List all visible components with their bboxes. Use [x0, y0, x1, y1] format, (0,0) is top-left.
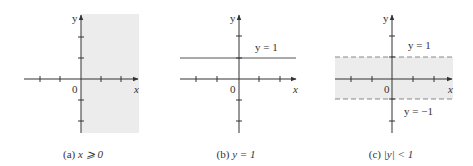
line-label-y-equals-1: y = 1	[255, 41, 278, 53]
origin-label: 0	[72, 83, 78, 95]
caption-c: (c) |y| < 1	[369, 148, 413, 161]
origin-label: 0	[230, 83, 236, 95]
panel-b: y x 0 y = 1 (b) y = 1	[180, 12, 298, 161]
panel-a: y x 0 (a) x ⩾ 0	[24, 12, 139, 161]
origin-label: 0	[384, 83, 390, 95]
x-axis-label: x	[292, 83, 298, 95]
shaded-region-x-nonneg	[81, 14, 139, 133]
shaded-band-abs-y-lt-1	[335, 57, 453, 99]
y-axis-label: y	[72, 12, 78, 24]
panel-c: y x 0 y = 1 y = −1 (c) |y| < 1	[335, 12, 453, 161]
caption-b: (b) y = 1	[217, 148, 256, 161]
x-axis-label: x	[447, 83, 453, 95]
x-axis-label: x	[133, 83, 139, 95]
label-lower-line: y = −1	[404, 105, 433, 117]
label-upper-line: y = 1	[408, 39, 431, 51]
y-axis-label: y	[383, 12, 389, 24]
y-axis-label: y	[230, 12, 236, 24]
figure-canvas: y x 0 (a) x ⩾ 0 y x 0 y = 1 (b) y = 1	[0, 0, 473, 166]
caption-a: (a) x ⩾ 0	[63, 148, 103, 161]
